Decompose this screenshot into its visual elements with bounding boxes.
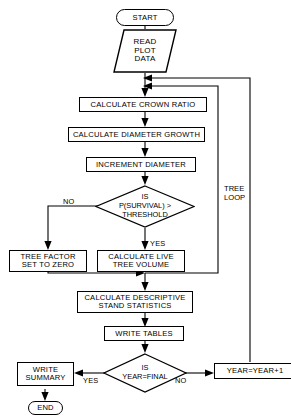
stand-stats-line-2: STAND STATISTICS: [98, 302, 171, 310]
flowchart-canvas: START READ PLOT DATA CALCULATE CROWN RAT…: [0, 0, 291, 420]
node-calculate-crown-ratio-label: CALCULATE CROWN RATIO: [91, 101, 196, 109]
node-calculate-stand-statistics: CALCULATE DESCRIPTIVE STAND STATISTICS: [77, 291, 193, 313]
node-read-plot-data-label: READ PLOT DATA: [113, 29, 177, 73]
node-calculate-crown-ratio: CALCULATE CROWN RATIO: [79, 97, 207, 112]
live-volume-line-2: TREE VOLUME: [113, 261, 170, 269]
tree-loop-line-1: TREE: [224, 184, 245, 193]
node-calculate-diameter-growth-label: CALCULATE DIAMETER GROWTH: [73, 131, 200, 139]
node-read-plot-data: READ PLOT DATA: [113, 29, 177, 73]
edge-label-survival-yes: YES: [150, 239, 165, 248]
edge-label-year-yes: YES: [83, 376, 98, 385]
node-calculate-diameter-growth: CALCULATE DIAMETER GROWTH: [68, 127, 205, 142]
node-write-tables: WRITE TABLES: [104, 326, 184, 341]
node-year-increment: YEAR=YEAR+1: [214, 363, 291, 379]
node-year-final-text: IS YEAR=FINAL: [103, 353, 187, 393]
year-final-line-2: YEAR=FINAL: [122, 373, 167, 382]
node-calculate-live-tree-volume: CALCULATE LIVE TREE VOLUME: [97, 250, 185, 272]
node-write-summary: WRITE SUMMARY: [17, 362, 74, 386]
node-tree-factor-set-to-zero: TREE FACTOR SET TO ZERO: [9, 250, 87, 272]
annotation-tree-loop: TREE LOOP: [224, 184, 245, 203]
survival-line-3: THRESHOLD: [122, 211, 168, 220]
node-start-label: START: [132, 14, 157, 22]
node-increment-diameter: INCREMENT DIAMETER: [86, 157, 196, 172]
node-year-final-decision: IS YEAR=FINAL: [103, 353, 187, 393]
write-summary-line-2: SUMMARY: [25, 374, 65, 382]
node-survival-decision: IS P(SURVIVAL) > THRESHOLD: [95, 185, 195, 228]
tree-loop-line-2: LOOP: [224, 193, 245, 202]
edge-label-survival-no: NO: [63, 197, 75, 206]
node-year-increment-label: YEAR=YEAR+1: [227, 367, 284, 375]
node-start: START: [116, 9, 174, 26]
node-end: END: [28, 401, 63, 415]
node-end-label: END: [37, 404, 54, 412]
tree-factor-line-2: SET TO ZERO: [22, 261, 74, 269]
node-write-tables-label: WRITE TABLES: [115, 330, 172, 338]
node-survival-decision-text: IS P(SURVIVAL) > THRESHOLD: [95, 185, 195, 228]
node-increment-diameter-label: INCREMENT DIAMETER: [96, 161, 186, 169]
